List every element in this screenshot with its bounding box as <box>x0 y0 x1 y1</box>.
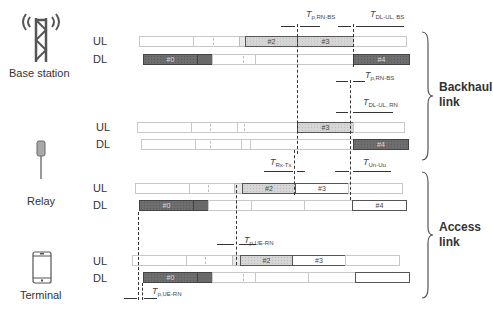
subframe <box>208 200 252 211</box>
terminal-ul-label: UL <box>93 255 107 267</box>
timing-line <box>142 283 143 300</box>
relay-ac-dl-bar: #0 #4 <box>139 200 407 211</box>
access-link-label: Access link <box>439 220 481 250</box>
timing-line <box>297 24 298 154</box>
terminal-ul-bar: #2 #3 <box>132 255 400 266</box>
arrow-right <box>338 26 351 27</box>
subframe <box>132 255 187 266</box>
subframe-3: #3 <box>297 36 354 47</box>
tdl-ul-rn-label: TDL-UL, RN <box>363 97 398 108</box>
subframe <box>135 183 190 194</box>
subframe <box>348 183 403 194</box>
backhaul-brace <box>420 30 434 162</box>
arrow-left <box>144 298 157 299</box>
arrow-right <box>124 298 137 299</box>
subframe <box>186 255 233 266</box>
arrow-right <box>264 171 293 172</box>
guard-period <box>197 54 213 65</box>
terminal-label: Terminal <box>20 289 62 301</box>
tun-uu-label: TUn-Uu <box>363 157 386 168</box>
subframe <box>212 272 256 283</box>
subframe-0: #0 <box>139 200 194 211</box>
subframe-3: #3 <box>292 255 346 266</box>
arrow-left <box>353 81 365 82</box>
subframe <box>250 139 354 150</box>
terminal-dl-label: DL <box>93 272 107 284</box>
arrow-right <box>336 81 348 82</box>
subframe-2: #2 <box>242 183 296 194</box>
bs-dl-bar: #0 #4 <box>143 54 411 65</box>
subframe <box>195 139 242 150</box>
relay-bh-dl-label: DL <box>96 138 110 150</box>
arrow-right <box>281 26 295 27</box>
subframe-4: #4 <box>352 200 407 211</box>
access-brace <box>420 170 434 300</box>
subframe-2: #2 <box>245 36 298 47</box>
subframe <box>353 36 407 47</box>
arrow-left <box>297 171 305 172</box>
subframe-4: #4 <box>353 139 409 150</box>
tdl-ul-bs-label: TDL-UL, BS <box>370 9 404 20</box>
arrow-left <box>353 171 391 172</box>
subframe <box>193 36 240 47</box>
arrow-left <box>356 26 404 27</box>
relay-ac-dl-label: DL <box>93 199 107 211</box>
relay-bh-ul-label: UL <box>96 121 110 133</box>
timing-line <box>294 150 295 195</box>
arrow-right <box>217 244 234 245</box>
subframe-3: #3 <box>295 183 349 194</box>
timing-line <box>350 80 351 200</box>
backhaul-link-label: Backhaul link <box>439 80 492 110</box>
base-station-label: Base station <box>9 67 70 79</box>
subframe <box>255 54 354 65</box>
timing-line <box>138 212 139 300</box>
relay-ac-ul-label: UL <box>93 182 107 194</box>
subframe-4: #4 <box>353 54 410 65</box>
subframe <box>141 139 196 150</box>
arrow-left <box>353 112 393 113</box>
subframe-3: #3 <box>297 122 354 133</box>
bs-ul-bar: #2 #3 <box>139 36 407 47</box>
antenna-tower-icon <box>16 6 66 66</box>
arrow-right <box>336 112 348 113</box>
subframe <box>251 200 305 211</box>
timing-line <box>236 185 237 265</box>
relay-label: Relay <box>27 195 55 207</box>
subframe <box>212 54 256 65</box>
subframe <box>304 200 353 211</box>
guard-period <box>193 200 209 211</box>
tp-ue-rn-label-bottom: Tp,UE-RN <box>152 286 182 297</box>
terminal-dl-bar: #0 <box>143 272 411 283</box>
arrow-left <box>239 244 256 245</box>
subframe <box>308 272 356 283</box>
bs-ul-label: UL <box>93 35 107 47</box>
subframe-2: #2 <box>240 255 293 266</box>
guard-period <box>197 272 213 283</box>
subframe <box>191 122 238 133</box>
subframe <box>353 122 405 133</box>
arrow-left <box>300 26 320 27</box>
mobile-phone-icon <box>31 251 53 285</box>
bs-dl-label: DL <box>93 53 107 65</box>
subframe <box>345 255 400 266</box>
timing-line <box>353 24 354 67</box>
relay-antenna-icon <box>34 139 48 181</box>
relay-bh-dl-bar: #4 <box>141 139 409 150</box>
subframe <box>255 272 309 283</box>
subframe <box>139 36 194 47</box>
relay-ac-ul-bar: #2 #3 <box>135 183 403 194</box>
subframe <box>137 122 192 133</box>
trx-tx-label: TRx-Tx <box>270 157 292 168</box>
subframe-last <box>355 272 410 283</box>
tp-rn-bs-label-mid: Tp,RN-BS <box>365 70 394 81</box>
arrow-right <box>335 171 349 172</box>
subframe-0: #0 <box>143 272 198 283</box>
relay-bh-ul-bar: #3 <box>137 122 405 133</box>
tp-rn-bs-label-top: Tp,RN-BS <box>306 9 335 20</box>
subframe <box>237 122 298 133</box>
subframe-0: #0 <box>143 54 198 65</box>
